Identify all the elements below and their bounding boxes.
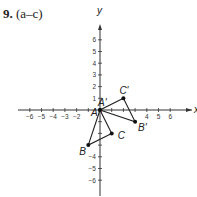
x-tick-label: 6 <box>168 113 172 120</box>
point-label: B' <box>138 122 148 133</box>
x-tick-label: −3 <box>61 113 69 120</box>
point-b-prime <box>133 120 137 124</box>
x-axis-label: x <box>193 104 197 115</box>
point-label: A <box>90 107 98 118</box>
x-tick-label: −5 <box>38 113 46 120</box>
x-tick-label: −2 <box>73 113 81 120</box>
point-label: B <box>79 146 86 157</box>
point-c <box>110 131 114 135</box>
y-tick-label: 1 <box>92 95 96 102</box>
y-tick-label: 4 <box>92 60 96 67</box>
x-axis-arrow-icon <box>186 108 192 112</box>
x-tick-label: −4 <box>49 113 57 120</box>
y-tick-label: 3 <box>92 71 96 78</box>
y-axis-label: y <box>96 5 103 16</box>
x-tick-label: 4 <box>145 113 149 120</box>
y-tick-label: 5 <box>92 48 96 55</box>
point-b <box>86 143 90 147</box>
point-c-prime <box>121 96 125 100</box>
y-tick-label: 2 <box>92 83 96 90</box>
point-label: C <box>118 130 126 141</box>
y-tick-label: 6 <box>92 36 96 43</box>
x-tick-label: −6 <box>26 113 34 120</box>
y-tick-label: −5 <box>89 165 97 172</box>
point-a-prime <box>98 108 102 112</box>
y-axis-arrow-icon <box>98 24 102 30</box>
coordinate-plot: xy−6−5−4−3−2456654321−4−5−6ABCA'B'C' <box>0 0 197 197</box>
y-tick-label: −4 <box>89 153 97 160</box>
point-label: C' <box>119 85 129 96</box>
x-tick-label: 5 <box>157 113 161 120</box>
point-label: A' <box>97 97 108 108</box>
y-tick-label: −6 <box>89 177 97 184</box>
